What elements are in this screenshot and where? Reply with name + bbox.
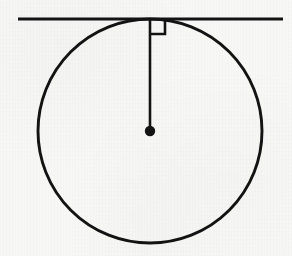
right-angle-marker: [150, 19, 165, 34]
geometry-figure: [0, 0, 292, 256]
center-point: [145, 126, 155, 136]
diagram-canvas: [0, 0, 292, 256]
